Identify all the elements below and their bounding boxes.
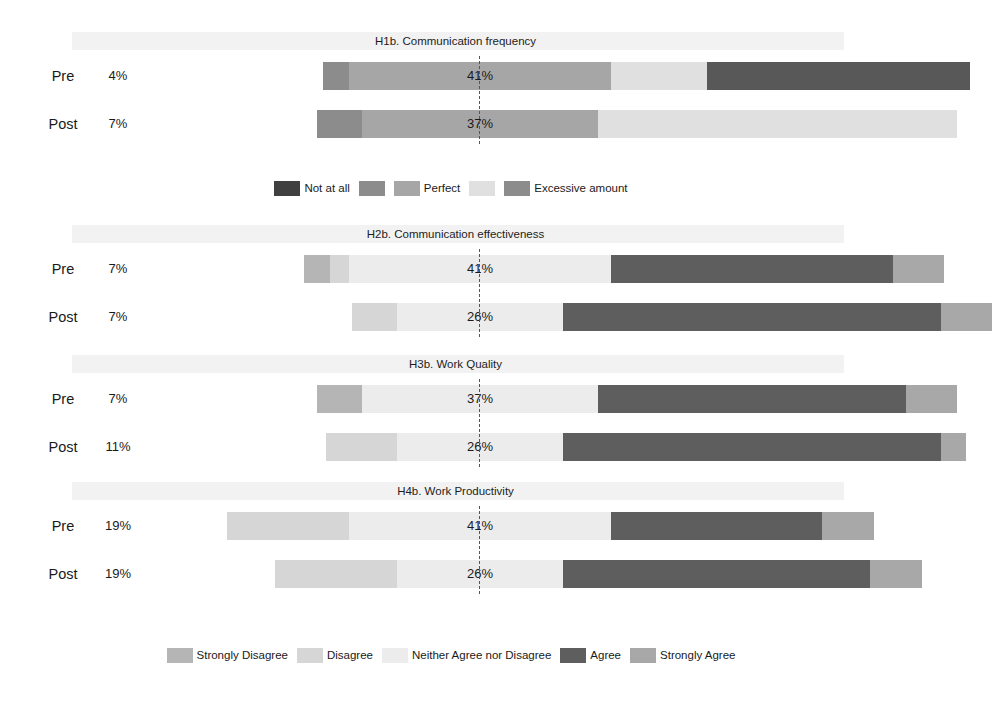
- legend-swatch-icon: [394, 181, 420, 196]
- row-left-total: 7%: [88, 248, 148, 290]
- legend-item[interactable]: Agree: [560, 648, 630, 663]
- stacked-bar: 37%: [317, 110, 957, 138]
- stacked-bar: 26%: [326, 433, 966, 461]
- legend-label: Strongly Agree: [660, 649, 735, 661]
- chart-row: Post7%67%26%: [0, 296, 911, 338]
- chart-row: Post19%56%26%: [0, 553, 911, 595]
- center-reference-line: [479, 249, 480, 337]
- legend-label: Strongly Disagree: [197, 649, 288, 661]
- bar-segment-5: [822, 512, 873, 540]
- bar-segment-5: [893, 255, 944, 283]
- bar-segment-4: [598, 385, 905, 413]
- stacked-bar: 41%: [323, 62, 969, 90]
- bar-segment-5: [707, 62, 969, 90]
- chart-legend: Not at allPerfectExcessive amount: [0, 178, 911, 198]
- bar-segment-5: [906, 385, 957, 413]
- bar-segment-2: [326, 433, 396, 461]
- stacked-bar: 41%: [227, 512, 873, 540]
- row-left-total: 4%: [88, 55, 148, 97]
- legend-label: Perfect: [424, 182, 460, 194]
- legend-swatch-icon: [469, 181, 495, 196]
- legend-item[interactable]: Disagree: [297, 648, 382, 663]
- legend-item[interactable]: [359, 181, 394, 196]
- chart-row: Post7%56%37%: [0, 103, 911, 145]
- legend-item[interactable]: Neither Agree nor Disagree: [382, 648, 560, 663]
- legend-item[interactable]: [469, 181, 504, 196]
- legend-swatch-icon: [359, 181, 385, 196]
- row-left-total: 19%: [88, 505, 148, 547]
- bar-segment-2: [330, 255, 349, 283]
- legend-item[interactable]: Strongly Agree: [630, 648, 744, 663]
- row-left-total: 7%: [88, 103, 148, 145]
- bar-segment-2: [227, 512, 349, 540]
- bar-segment-2: [317, 110, 362, 138]
- legend-item[interactable]: Not at all: [274, 181, 358, 196]
- bar-segment-4: [611, 512, 822, 540]
- bar-segment-4: [611, 62, 707, 90]
- legend-swatch-icon: [167, 648, 193, 663]
- center-reference-line: [479, 379, 480, 467]
- bar-segment-5: [941, 433, 967, 461]
- legend-label: Agree: [590, 649, 621, 661]
- chart-row: Pre7%56%37%: [0, 378, 911, 420]
- stacked-bar: 41%: [304, 255, 944, 283]
- row-left-total: 7%: [88, 378, 148, 420]
- bar-segment-4: [563, 560, 870, 588]
- chart-row: Pre19%41%41%: [0, 505, 911, 547]
- stacked-bar: 37%: [317, 385, 957, 413]
- bar-segment-4: [611, 255, 893, 283]
- legend-item[interactable]: Strongly Disagree: [167, 648, 297, 663]
- panel-title: H2b. Communication effectiveness: [0, 225, 911, 243]
- legend-item[interactable]: Excessive amount: [504, 181, 636, 196]
- bar-segment-2: [323, 62, 349, 90]
- panel-title: H3b. Work Quality: [0, 355, 911, 373]
- legend-swatch-icon: [504, 181, 530, 196]
- row-left-total: 19%: [88, 553, 148, 595]
- panel-title: H4b. Work Productivity: [0, 482, 911, 500]
- stacked-bar: 26%: [352, 303, 992, 331]
- chart-legend: Strongly DisagreeDisagreeNeither Agree n…: [0, 645, 911, 665]
- bar-segment-1: [317, 385, 362, 413]
- chart-row: Pre7%52%41%: [0, 248, 911, 290]
- bar-segment-5: [941, 303, 992, 331]
- legend-swatch-icon: [297, 648, 323, 663]
- bar-segment-5: [870, 560, 921, 588]
- legend-label: Not at all: [304, 182, 349, 194]
- chart-panel: H3b. Work QualityPre7%56%37%Post11%63%26…: [0, 355, 911, 495]
- row-left-total: 11%: [88, 426, 148, 468]
- bar-segment-2: [352, 303, 397, 331]
- chart-panel: H2b. Communication effectivenessPre7%52%…: [0, 225, 911, 365]
- legend-label: Disagree: [327, 649, 373, 661]
- bar-segment-4: [563, 433, 941, 461]
- legend-swatch-icon: [382, 648, 408, 663]
- bar-segment-2: [275, 560, 397, 588]
- chart-row: Pre4%56%41%: [0, 55, 911, 97]
- chart-panel: H4b. Work ProductivityPre19%41%41%Post19…: [0, 482, 911, 622]
- legend-swatch-icon: [560, 648, 586, 663]
- panel-title: H1b. Communication frequency: [0, 32, 911, 50]
- legend-swatch-icon: [274, 181, 300, 196]
- legend-swatch-icon: [630, 648, 656, 663]
- chart-panel: H1b. Communication frequencyPre4%56%41%P…: [0, 32, 911, 172]
- stacked-bar: 26%: [275, 560, 921, 588]
- legend-label: Neither Agree nor Disagree: [412, 649, 551, 661]
- bar-segment-1: [304, 255, 330, 283]
- bar-segment-4: [563, 303, 941, 331]
- center-reference-line: [479, 56, 480, 144]
- row-left-total: 7%: [88, 296, 148, 338]
- center-reference-line: [479, 506, 480, 594]
- bar-segment-4: [598, 110, 956, 138]
- legend-item[interactable]: Perfect: [394, 181, 469, 196]
- chart-row: Post11%63%26%: [0, 426, 911, 468]
- legend-label: Excessive amount: [534, 182, 627, 194]
